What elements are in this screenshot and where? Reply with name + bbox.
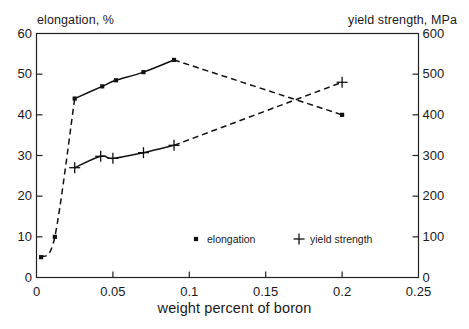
tick-label-right-6: 600: [423, 26, 457, 41]
x-axis-ticks: [113, 272, 342, 278]
yield-strength-solid-curve: [75, 145, 174, 167]
legend-marker-0: [194, 237, 198, 241]
tick-label-right-4: 400: [423, 107, 457, 122]
elongation-solid-curve: [75, 60, 174, 99]
right-axis-ticks: [413, 74, 419, 237]
tick-label-left-6: 60: [2, 26, 32, 41]
legend-label-elongation: elongation: [207, 233, 255, 245]
elongation-point-1: [53, 235, 57, 239]
tick-label-x-3: 0.15: [241, 284, 291, 299]
tick-label-x-4: 0.2: [317, 284, 367, 299]
plot-area: [0, 0, 469, 329]
yield-strength-point-5: [337, 77, 348, 88]
tick-label-left-2: 20: [2, 188, 32, 203]
elongation-point-3: [100, 84, 104, 88]
tick-label-right-5: 500: [423, 66, 457, 81]
tick-label-right-2: 200: [423, 188, 457, 203]
elongation-point-7: [340, 113, 344, 117]
elongation-point-6: [172, 58, 176, 62]
elongation-point-4: [114, 78, 118, 82]
yield-strength-point-2: [107, 153, 118, 164]
tick-label-left-5: 50: [2, 66, 32, 81]
tick-label-left-0: 0: [2, 270, 32, 285]
tick-label-x-0: 0: [12, 284, 62, 299]
yield-strength-point-3: [138, 147, 149, 158]
series-markers: [39, 58, 348, 259]
tick-label-x-1: 0.05: [88, 284, 138, 299]
tick-label-left-1: 10: [2, 229, 32, 244]
tick-label-left-3: 30: [2, 148, 32, 163]
elongation-dashed-tail: [174, 60, 342, 115]
series-curves: [41, 60, 342, 257]
chart-figure: elongation, % yield strength, MPa weight…: [0, 0, 469, 329]
legend-marker-1: [294, 234, 305, 245]
elongation-point-2: [73, 96, 77, 100]
yield-strength-point-4: [169, 140, 180, 151]
legend-label-yield-strength: yield strength: [310, 233, 372, 245]
tick-label-left-4: 40: [2, 107, 32, 122]
yield-strength-dashed-tail: [174, 82, 342, 145]
elongation-point-5: [141, 70, 145, 74]
tick-label-x-2: 0.1: [164, 284, 214, 299]
tick-label-right-3: 300: [423, 148, 457, 163]
elongation-point-0: [39, 255, 43, 259]
tick-label-right-0: 0: [423, 270, 457, 285]
tick-label-x-5: 0.25: [394, 284, 444, 299]
elongation-dashed-lead: [41, 99, 75, 258]
left-axis-ticks: [37, 74, 43, 237]
yield-strength-point-0: [69, 162, 80, 173]
tick-label-right-1: 100: [423, 229, 457, 244]
yield-strength-point-1: [95, 151, 106, 162]
